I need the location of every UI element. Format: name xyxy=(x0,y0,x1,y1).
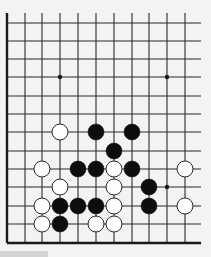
black-stone[interactable] xyxy=(124,161,140,177)
black-stone[interactable] xyxy=(52,216,68,232)
black-stone[interactable] xyxy=(88,161,104,177)
star-point-icon xyxy=(165,75,169,79)
bottom-bar xyxy=(0,251,48,257)
white-stone[interactable] xyxy=(177,198,193,214)
black-stone[interactable] xyxy=(70,161,86,177)
white-stone[interactable] xyxy=(52,124,68,140)
black-stone[interactable] xyxy=(52,198,68,214)
white-stone[interactable] xyxy=(106,216,122,232)
black-stone[interactable] xyxy=(88,124,104,140)
white-stone[interactable] xyxy=(34,216,50,232)
white-stone[interactable] xyxy=(88,216,104,232)
white-stone[interactable] xyxy=(106,161,122,177)
black-stone[interactable] xyxy=(70,198,86,214)
white-stone[interactable] xyxy=(34,161,50,177)
go-board-grid[interactable] xyxy=(0,0,211,257)
go-board[interactable] xyxy=(0,0,211,257)
star-point-icon xyxy=(165,185,169,189)
black-stone[interactable] xyxy=(141,198,157,214)
star-point-icon xyxy=(58,75,62,79)
white-stone[interactable] xyxy=(106,179,122,195)
black-stone[interactable] xyxy=(106,143,122,159)
black-stone[interactable] xyxy=(88,198,104,214)
black-stone[interactable] xyxy=(124,124,140,140)
white-stone[interactable] xyxy=(34,198,50,214)
white-stone[interactable] xyxy=(106,198,122,214)
black-stone[interactable] xyxy=(141,179,157,195)
white-stone[interactable] xyxy=(52,179,68,195)
white-stone[interactable] xyxy=(177,161,193,177)
